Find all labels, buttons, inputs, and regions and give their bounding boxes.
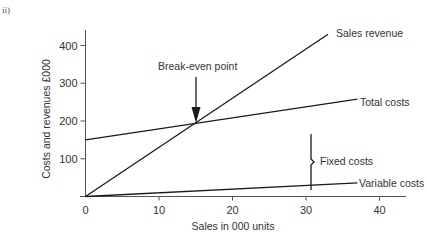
- y-tick-label: 300: [59, 77, 77, 89]
- label-fixed-costs: Fixed costs: [320, 156, 373, 167]
- label-variable-costs: Variable costs: [359, 178, 424, 189]
- series-sales-revenue: [86, 34, 329, 196]
- y-tick-label: 100: [59, 153, 77, 165]
- y-axis-label: Costs and revenues £000: [40, 59, 52, 179]
- label-sales-revenue: Sales revenue: [336, 28, 403, 39]
- x-ticks: 010203040: [82, 197, 385, 216]
- label-break-even-point: Break-even point: [158, 61, 237, 72]
- x-tick-label: 30: [300, 204, 312, 216]
- break-even-chart: ii) 100200300400 010203040 Sales revenue…: [0, 0, 427, 232]
- y-tick-label: 400: [59, 40, 77, 52]
- x-tick-label: 10: [153, 204, 165, 216]
- x-tick-label: 20: [226, 204, 238, 216]
- fixed-costs-brace-icon: [311, 134, 314, 190]
- x-tick-label: 0: [82, 204, 88, 216]
- y-tick-label: 200: [59, 115, 77, 127]
- label-total-costs: Total costs: [360, 97, 410, 108]
- x-axis-label: Sales in 000 units: [192, 220, 275, 232]
- series-variable-costs: [86, 183, 358, 197]
- series-lines: [86, 34, 358, 196]
- break-even-arrow-icon: [192, 77, 201, 123]
- y-ticks: 100200300400: [59, 40, 85, 165]
- x-tick-label: 40: [373, 204, 385, 216]
